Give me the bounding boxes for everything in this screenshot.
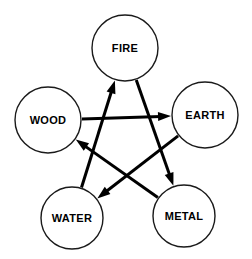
node-label-wood: WOOD	[30, 114, 67, 126]
edge-layer: WOOD → EARTHEARTH → WATERWATER → FIREFIR…	[76, 80, 178, 198]
edge-shaft	[136, 80, 170, 176]
edge-fire-metal: FIRE → METAL	[136, 80, 173, 186]
wuxing-diagram: WOOD → EARTHEARTH → WATERWATER → FIREFIR…	[0, 0, 252, 259]
diagram-canvas: WOOD → EARTHEARTH → WATERWATER → FIREFIR…	[0, 0, 252, 259]
node-earth[interactable]: EARTH	[172, 82, 238, 148]
node-label-earth: EARTH	[185, 109, 224, 121]
arrowhead-icon	[107, 80, 116, 94]
edge-shaft	[82, 90, 112, 187]
node-label-fire: FIRE	[112, 42, 138, 54]
node-label-water: WATER	[52, 212, 92, 224]
node-fire[interactable]: FIRE	[92, 15, 158, 81]
arrowhead-icon	[158, 112, 171, 121]
edge-wood-earth: WOOD → EARTH	[82, 112, 171, 121]
node-wood[interactable]: WOOD	[15, 87, 81, 153]
edge-water-fire: WATER → FIRE	[82, 80, 116, 187]
node-metal[interactable]: METAL	[153, 185, 215, 247]
node-label-metal: METAL	[165, 210, 204, 222]
arrowhead-icon	[165, 172, 174, 186]
node-water[interactable]: WATER	[41, 187, 103, 249]
edge-shaft	[84, 145, 158, 197]
node-layer: FIREWOODEARTHWATERMETAL	[15, 15, 238, 249]
